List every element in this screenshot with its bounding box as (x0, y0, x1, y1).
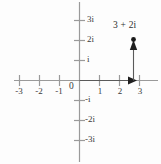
x-tick-label-neg2: -2 (31, 87, 47, 96)
x-tick-label-pos2: 2 (112, 87, 128, 96)
y-tick-label-pos2i: 2i (87, 35, 94, 44)
y-tick-label-neg3i: -3i (85, 135, 95, 144)
y-tick-label-neg1i: -i (85, 95, 91, 104)
complex-plane-axes (0, 0, 161, 164)
y-tick-label-neg2i: -2i (85, 115, 95, 124)
plotted-point-3-plus-2i (131, 37, 136, 42)
x-tick-label-pos3: 3 (132, 87, 148, 96)
x-tick-label-pos1: 1 (92, 87, 108, 96)
x-tick-label-neg1: -1 (51, 87, 67, 96)
real-component-arrowhead (128, 77, 137, 85)
y-tick-label-pos3i: 3i (87, 15, 94, 24)
origin-label: 0 (69, 82, 74, 92)
x-tick-label-neg3: -3 (11, 87, 27, 96)
complex-plane-figure: -3 -2 -1 1 2 3 0 3i 2i i -i -2i -3i 3 + … (0, 0, 161, 164)
point-label-3-plus-2i: 3 + 2i (113, 20, 136, 30)
y-tick-label-pos1i: i (87, 55, 90, 64)
